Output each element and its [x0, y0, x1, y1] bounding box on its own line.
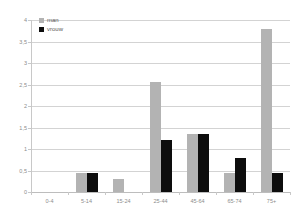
bar-cluster [31, 20, 68, 192]
y-axis-tick-label: 4 [5, 17, 27, 23]
x-axis-tick-mark [290, 192, 291, 195]
bar-man-5-14[interactable] [76, 173, 87, 192]
y-axis-tick-label: 1,5 [5, 125, 27, 131]
bar-man-45-64[interactable] [187, 134, 198, 192]
x-axis-tick-mark [68, 192, 69, 195]
y-axis-tick-label: 3,5 [5, 39, 27, 45]
legend-item-vrouw[interactable]: vrouw [39, 25, 63, 34]
bar-cluster [253, 20, 290, 192]
plot-area [31, 20, 290, 192]
bar-man-65-74[interactable] [224, 173, 235, 192]
x-axis-tick-mark [142, 192, 143, 195]
bar-cluster [216, 20, 253, 192]
bar-vrouw-5-14[interactable] [87, 173, 98, 192]
x-axis-tick-mark [253, 192, 254, 195]
bar-man-15-24[interactable] [113, 179, 124, 192]
x-axis-tick-label: 75+ [250, 198, 294, 205]
bar-cluster [105, 20, 142, 192]
bar-cluster [68, 20, 105, 192]
x-axis-tick-mark [31, 192, 32, 195]
y-axis-tick-label: 2,5 [5, 82, 27, 88]
chart-legend: man vrouw [39, 16, 63, 34]
bar-man-25-44[interactable] [150, 82, 161, 192]
bar-vrouw-25-44[interactable] [161, 140, 172, 192]
legend-swatch-man-icon [39, 18, 44, 23]
legend-swatch-vrouw-icon [39, 27, 44, 32]
x-axis-tick-mark [216, 192, 217, 195]
y-axis-tick-label: 1 [5, 146, 27, 152]
bar-vrouw-65-74[interactable] [235, 158, 246, 192]
y-axis-tick-label: 0 [5, 189, 27, 195]
bar-man-75+[interactable] [261, 29, 272, 192]
bar-cluster [142, 20, 179, 192]
bar-vrouw-75+[interactable] [272, 173, 283, 192]
x-axis-tick-mark [105, 192, 106, 195]
y-axis-tick-label: 2 [5, 103, 27, 109]
x-axis-tick-mark [179, 192, 180, 195]
legend-label-man: man [47, 16, 59, 25]
y-axis-tick-label: 3 [5, 60, 27, 66]
gridline [31, 192, 290, 193]
y-axis-tick-label: 0,5 [5, 168, 27, 174]
legend-item-man[interactable]: man [39, 16, 63, 25]
bar-cluster [179, 20, 216, 192]
bar-vrouw-45-64[interactable] [198, 134, 209, 192]
legend-label-vrouw: vrouw [47, 25, 63, 34]
bar-chart: 43,532,521,510,50 0-45-1415-2425-4445-64… [0, 0, 298, 218]
